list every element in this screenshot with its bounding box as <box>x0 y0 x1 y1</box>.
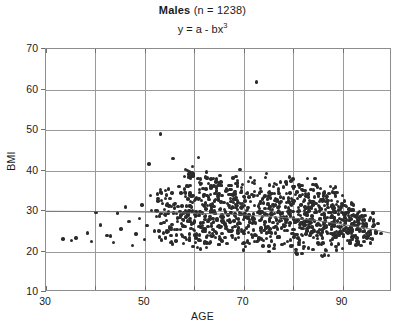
x-tick-label: 30 <box>25 295 65 307</box>
y-tick-label: 60 <box>8 84 38 94</box>
x-tick-label: 90 <box>322 295 362 307</box>
y-tick-label: 50 <box>8 124 38 134</box>
x-tick-label: 50 <box>124 295 164 307</box>
regression-fit-curve <box>46 49 390 290</box>
scatter-plot-figure: Males (n = 1238) y = a - bx3 BMI AGE 102… <box>0 0 405 332</box>
chart-title: Males (n = 1238) <box>0 4 405 16</box>
plot-area <box>45 48 391 291</box>
y-axis-title: BMI <box>5 136 17 186</box>
x-tick-label: 70 <box>223 295 263 307</box>
y-tick-label: 30 <box>8 205 38 215</box>
y-tick-label: 40 <box>8 165 38 175</box>
equation-base: y = a - bx <box>178 23 224 35</box>
chart-subtitle-equation: y = a - bx3 <box>0 21 405 35</box>
equation-exponent: 3 <box>223 21 227 30</box>
chart-title-bold: Males <box>159 4 191 16</box>
x-axis-title: AGE <box>0 310 405 322</box>
y-tick-label: 20 <box>8 246 38 256</box>
chart-title-sample-size: (n = 1238) <box>190 4 246 16</box>
y-tick-label: 70 <box>8 43 38 53</box>
y-tick-mark <box>41 291 46 292</box>
